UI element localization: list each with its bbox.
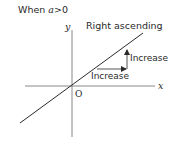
line-label: Right ascending xyxy=(86,20,163,31)
condition-inequality: >0 xyxy=(54,4,68,15)
y-axis-label: y xyxy=(64,21,71,32)
condition-title: When a>0 xyxy=(18,4,68,15)
linear-function-diagram: When a>0 y x O Right ascending Increase … xyxy=(0,0,177,143)
horizontal-increase-label: Increase xyxy=(91,71,130,81)
origin-label: O xyxy=(75,89,82,99)
x-axis-label: x xyxy=(158,80,164,91)
vertical-increase-label: Increase xyxy=(130,53,169,63)
condition-prefix: When xyxy=(18,4,48,15)
